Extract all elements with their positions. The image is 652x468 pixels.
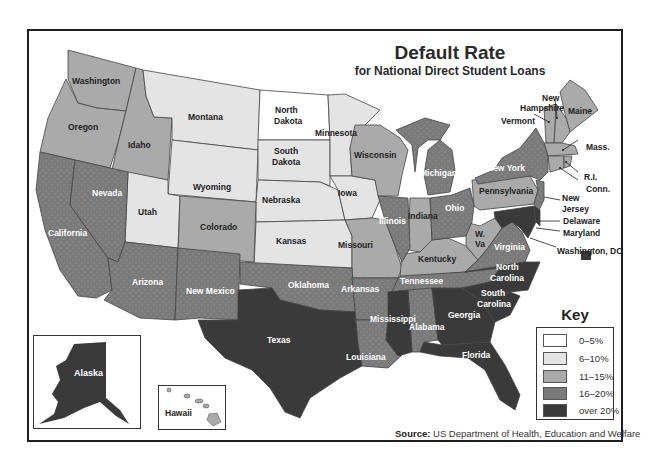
label-north-carolina-1: North bbox=[496, 262, 519, 272]
label-delaware: Delaware bbox=[563, 216, 601, 226]
key-item: 11–15% bbox=[543, 369, 613, 383]
key-label: over 20% bbox=[579, 405, 619, 416]
label-pennsylvania: Pennsylvania bbox=[479, 186, 534, 196]
label-washington: Washington bbox=[72, 76, 120, 86]
label-dc: Washington, DC bbox=[557, 246, 622, 256]
label-kentucky: Kentucky bbox=[418, 254, 457, 264]
label-new-jersey-2: Jersey bbox=[562, 204, 589, 214]
label-south-carolina-1: South bbox=[481, 288, 505, 298]
label-california: California bbox=[48, 228, 87, 238]
source-note: Source: US Department of Health, Educati… bbox=[395, 428, 640, 439]
key-legend: 0–5% 6–10% 11–15% 16–20% over 20% bbox=[536, 327, 614, 420]
label-tennessee: Tennessee bbox=[400, 276, 444, 286]
label-minnesota: Minnesota bbox=[315, 128, 357, 138]
key-item: over 20% bbox=[543, 403, 619, 417]
label-maryland: Maryland bbox=[563, 228, 600, 238]
label-idaho: Idaho bbox=[128, 140, 151, 150]
label-iowa: Iowa bbox=[338, 188, 357, 198]
label-illinois: Illinois bbox=[379, 216, 406, 226]
label-kansas: Kansas bbox=[276, 236, 307, 246]
hawaii-islands bbox=[159, 386, 224, 428]
key-item: 16–20% bbox=[543, 386, 614, 400]
label-texas: Texas bbox=[267, 335, 291, 345]
label-conn: Conn. bbox=[586, 184, 610, 194]
map-subtitle: for National Direct Student Loans bbox=[330, 64, 570, 78]
label-utah: Utah bbox=[138, 207, 157, 217]
label-virginia: Virginia bbox=[494, 242, 525, 252]
label-indiana: Indiana bbox=[408, 211, 438, 221]
label-nebraska: Nebraska bbox=[262, 195, 301, 205]
label-ri: R.I. bbox=[584, 172, 597, 182]
label-wisconsin: Wisconsin bbox=[354, 150, 396, 160]
swatch-over-20 bbox=[543, 404, 567, 417]
label-georgia: Georgia bbox=[448, 310, 480, 320]
label-vermont: Vermont bbox=[501, 116, 535, 126]
alaska-inset: Alaska bbox=[33, 335, 141, 429]
hawaii-label: Hawaii bbox=[165, 408, 192, 418]
key-title: Key bbox=[540, 306, 610, 323]
label-new-jersey-1: New bbox=[562, 193, 580, 203]
key-label: 11–15% bbox=[579, 371, 613, 382]
source-text: US Department of Health, Education and W… bbox=[433, 428, 640, 439]
label-new-hampshire-1: New bbox=[542, 93, 560, 103]
swatch-11-15 bbox=[543, 370, 567, 383]
key-label: 0–5% bbox=[579, 335, 603, 346]
label-south-dakota-2: Dakota bbox=[272, 157, 301, 167]
label-colorado: Colorado bbox=[200, 222, 237, 232]
label-wva-1: W. bbox=[475, 229, 485, 239]
label-maine: Maine bbox=[568, 106, 592, 116]
map-title: Default Rate bbox=[330, 42, 570, 64]
label-wva-2: Va bbox=[475, 239, 485, 249]
label-new-hampshire-2: Hampshire bbox=[520, 103, 564, 113]
swatch-16-20 bbox=[543, 387, 567, 400]
swatch-6-10 bbox=[543, 352, 567, 365]
label-north-carolina-2: Carolina bbox=[490, 273, 524, 283]
label-oregon: Oregon bbox=[68, 122, 98, 132]
key-item: 0–5% bbox=[543, 333, 603, 347]
label-oklahoma: Oklahoma bbox=[288, 280, 329, 290]
label-florida: Florida bbox=[462, 350, 491, 360]
key-label: 6–10% bbox=[579, 353, 609, 364]
state-new-mexico bbox=[175, 248, 240, 320]
label-montana: Montana bbox=[188, 112, 223, 122]
state-new-york bbox=[475, 128, 548, 184]
label-louisiana: Louisiana bbox=[346, 352, 386, 362]
label-michigan: Michigan bbox=[420, 168, 457, 178]
label-arizona: Arizona bbox=[132, 277, 163, 287]
label-ohio: Ohio bbox=[445, 203, 464, 213]
label-south-carolina-2: Carolina bbox=[477, 299, 511, 309]
state-connecticut bbox=[548, 156, 564, 172]
label-mass: Mass. bbox=[586, 142, 610, 152]
state-wyoming bbox=[168, 140, 258, 202]
swatch-0-5 bbox=[543, 334, 567, 347]
label-missouri: Missouri bbox=[338, 240, 373, 250]
key-item: 6–10% bbox=[543, 351, 609, 365]
label-wyoming: Wyoming bbox=[193, 182, 231, 192]
label-nevada: Nevada bbox=[92, 188, 123, 198]
hawaii-inset: Hawaii bbox=[158, 385, 226, 430]
key-label: 16–20% bbox=[579, 388, 614, 399]
label-north-dakota-1: North bbox=[275, 105, 298, 115]
label-new-mexico: New Mexico bbox=[186, 286, 235, 296]
source-label: Source: bbox=[395, 428, 430, 439]
label-arkansas: Arkansas bbox=[341, 284, 380, 294]
alaska-label: Alaska bbox=[74, 368, 103, 378]
label-south-dakota-1: South bbox=[274, 146, 298, 156]
state-massachusetts bbox=[544, 143, 578, 156]
alaska-shape bbox=[34, 336, 139, 427]
label-mississippi: Mississippi bbox=[370, 314, 416, 324]
label-north-dakota-2: Dakota bbox=[274, 116, 303, 126]
label-new-york: New York bbox=[487, 163, 525, 173]
